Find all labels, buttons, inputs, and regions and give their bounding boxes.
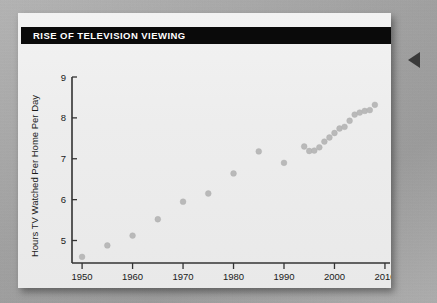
y-tick-label: 8 bbox=[61, 112, 66, 123]
data-point bbox=[180, 199, 186, 205]
y-axis-title: Hours TV Watched Per Home Per Day bbox=[29, 95, 40, 257]
x-tick-label: 1990 bbox=[273, 271, 294, 282]
x-tick-label: 1960 bbox=[122, 271, 143, 282]
data-point bbox=[347, 118, 353, 124]
data-point bbox=[79, 254, 85, 260]
x-tick-label: 1950 bbox=[72, 271, 93, 282]
data-point bbox=[104, 243, 110, 249]
x-tick-label: 2010 bbox=[374, 271, 391, 282]
data-point bbox=[342, 124, 348, 130]
data-point bbox=[130, 233, 136, 239]
data-point bbox=[327, 135, 333, 141]
data-point bbox=[332, 130, 338, 136]
data-point bbox=[367, 107, 373, 113]
y-tick-label: 5 bbox=[61, 235, 66, 246]
data-point bbox=[372, 102, 378, 108]
chart-title-bar: RISE OF TELEVISION VIEWING bbox=[21, 27, 391, 44]
data-point bbox=[321, 139, 327, 145]
plot-area: 567891950196019701980199020002010YearHou… bbox=[18, 47, 391, 288]
data-point bbox=[205, 191, 211, 197]
scatter-plot-svg: 567891950196019701980199020002010YearHou… bbox=[18, 47, 391, 288]
data-point bbox=[316, 144, 322, 150]
y-tick-label: 9 bbox=[61, 72, 66, 83]
x-tick-label: 1970 bbox=[172, 271, 193, 282]
x-tick-label: 1980 bbox=[223, 271, 244, 282]
x-axis-title: Year bbox=[189, 287, 208, 288]
y-tick-label: 6 bbox=[61, 194, 66, 205]
screenshot-root: RISE OF TELEVISION VIEWING 5678919501960… bbox=[0, 0, 437, 303]
data-point bbox=[362, 108, 368, 114]
data-point bbox=[281, 160, 287, 166]
x-tick-label: 2000 bbox=[324, 271, 345, 282]
data-point bbox=[155, 216, 161, 222]
y-tick-label: 7 bbox=[61, 153, 66, 164]
data-point bbox=[301, 144, 307, 150]
data-point bbox=[256, 149, 262, 155]
data-point bbox=[311, 148, 317, 154]
left-pointing-triangle-icon bbox=[408, 52, 420, 68]
chart-title: RISE OF TELEVISION VIEWING bbox=[21, 30, 186, 41]
figure-card: RISE OF TELEVISION VIEWING 5678919501960… bbox=[18, 13, 391, 288]
data-point bbox=[231, 171, 237, 177]
